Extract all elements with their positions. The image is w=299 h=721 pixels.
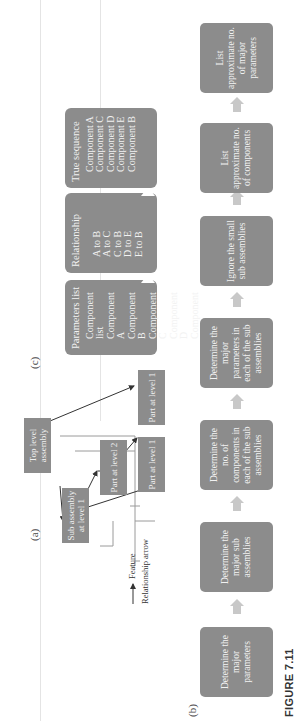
figure-label: FIGURE 7.11 [283,648,295,717]
pointer-triangle-icon [141,274,155,283]
panel-b-label: (b) [186,704,198,717]
step-text: Determine the major sub assemblies [220,526,253,588]
step-5-box: Ignore the small sub assemblies [200,216,273,286]
step-2-box: Determine the major sub assemblies [200,522,273,592]
step-text: Determine the no. of components in each … [209,424,264,486]
step-4-box: Determine the major parameters in each o… [200,318,273,388]
step-1-box: Determine the major parameters [200,627,273,697]
panel-c-label: (c) [28,357,40,369]
step-text: Determine the major parameters [220,631,253,693]
step-3-box: Determine the no. of components in each … [200,420,273,490]
box-item: Component C [95,114,106,182]
box-item: Component A [106,286,127,349]
box-item: A to C [102,199,113,267]
box-item: Component D [169,286,190,349]
step-text: List approximate no. of major parameters [215,27,259,89]
arrow-right-icon [230,98,244,112]
step-text: List approximate no. of components [220,127,253,189]
box-item: Component B [127,114,138,182]
step-text: Determine the major parameters in each o… [209,322,264,384]
box-title: True sequence [71,114,82,182]
legend-feature: Feature [127,554,137,580]
arrow-right-icon [230,497,244,511]
box-item: D to E [123,199,134,267]
box-title: Parameters list [71,286,82,349]
true-sequence-box: True sequence Component A Component C Co… [65,108,157,188]
box-item: Component B [127,286,148,349]
arrow-right-icon [230,395,244,409]
legend-relationship-arrow: Relationship arrow [140,539,150,604]
step-7-box: List approximate no. of major parameters [200,23,273,93]
relationship-box: Relationship A to B A to C C to B D to E… [65,193,157,273]
step-text: Ignore the small sub assemblies [226,220,248,282]
arrow-right-icon [230,293,244,307]
figure-canvas: (a) Top level assembly Sub assembly at l… [0,0,299,721]
box-item: Component list [85,286,106,349]
pointer-triangle-icon [141,187,155,196]
box-item: E to B [134,199,145,267]
arrow-right-icon [230,600,244,614]
arrow-right-icon [230,191,244,205]
box-item: Component C [148,286,169,349]
box-title: Relationship [71,199,82,267]
step-6-box: List approximate no. of components [200,123,273,193]
box-item: Component E [116,114,127,182]
parameters-list-box: Parameters list Component list Component… [65,280,157,355]
